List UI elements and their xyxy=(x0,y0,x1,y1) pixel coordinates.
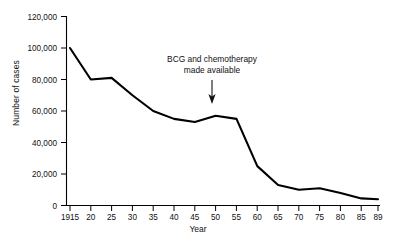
y-tick-label-80000: 80,000 xyxy=(32,76,57,85)
annotation-line-1: BCG and chemotherapy xyxy=(167,54,258,64)
annotation-bcg: BCG and chemotherapy made available xyxy=(167,54,258,104)
y-tick-label-120000: 120,000 xyxy=(27,13,57,22)
x-tick-label-65: 65 xyxy=(273,213,283,222)
x-tick-label-70: 70 xyxy=(294,213,304,222)
x-axis-label-text: Year xyxy=(189,224,206,234)
chart-plot-area: 0 20,000 40,000 60,000 80,000 100,000 12… xyxy=(0,0,408,246)
x-tick-label-25: 25 xyxy=(107,213,117,222)
x-tick-label-30: 30 xyxy=(128,213,138,222)
x-tick-label-89: 89 xyxy=(373,213,383,222)
x-tick-label-80: 80 xyxy=(336,213,346,222)
y-tick-label-100000: 100,000 xyxy=(27,44,57,53)
x-tick-label-1915: 1915 xyxy=(61,213,80,222)
x-tick-label-20: 20 xyxy=(86,213,96,222)
x-tick-label-75: 75 xyxy=(315,213,325,222)
y-tick-label-40000: 40,000 xyxy=(32,139,57,148)
axis-spines xyxy=(67,16,381,206)
x-tick-label-55: 55 xyxy=(232,213,242,222)
y-axis-ticks: 0 20,000 40,000 60,000 80,000 100,000 12… xyxy=(27,13,66,211)
x-tick-label-60: 60 xyxy=(253,213,263,222)
x-axis-ticks: 1915 20 25 30 35 40 45 50 55 60 65 70 75… xyxy=(61,206,383,223)
x-tick-label-50: 50 xyxy=(211,213,221,222)
down-arrow-icon xyxy=(208,80,215,104)
x-tick-label-45: 45 xyxy=(190,213,200,222)
x-tick-label-35: 35 xyxy=(149,213,159,222)
y-tick-label-20000: 20,000 xyxy=(32,170,57,179)
annotation-line-2: made available xyxy=(184,65,241,75)
chart-figure: Number of cases 0 20,000 40,000 60,000 8… xyxy=(0,0,408,246)
x-axis-label: Year xyxy=(0,224,408,234)
x-tick-label-40: 40 xyxy=(169,213,179,222)
y-tick-label-0: 0 xyxy=(52,202,57,211)
x-tick-label-85: 85 xyxy=(357,213,367,222)
y-tick-label-60000: 60,000 xyxy=(32,107,57,116)
